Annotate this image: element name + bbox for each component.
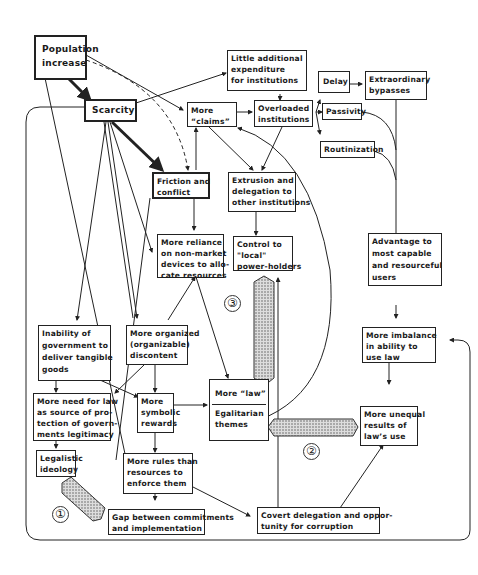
node-text: Delay	[323, 76, 345, 87]
node-text: delegation to	[232, 186, 292, 197]
node-text: Little additional	[231, 53, 303, 64]
node-text: More unequal	[364, 409, 414, 420]
node-more-law: More “law”	[215, 388, 263, 399]
node-overloaded-institutions: Overloaded institutions	[254, 100, 313, 127]
node-text: ments legitimacy	[37, 429, 107, 440]
node-more-symbolic-rewards: More symbolic rewards	[137, 393, 174, 433]
node-text: and resourceful	[372, 260, 438, 272]
node-text: bypasses	[369, 85, 423, 96]
node-more-law-egalitarian: More “law” Egalitarian themes	[209, 379, 269, 441]
node-text: users	[372, 272, 438, 284]
node-text: “claims”	[191, 116, 233, 127]
node-text: Routinization	[324, 144, 371, 155]
node-text: other institutions	[232, 197, 292, 208]
node-text: law’s use	[364, 431, 414, 442]
node-text: tunity for corruption	[261, 521, 376, 532]
node-text: use law	[366, 352, 432, 363]
node-text: enforce them	[127, 478, 189, 489]
node-text: conflict	[157, 187, 205, 198]
node-text: in ability to	[366, 341, 432, 352]
node-more-rules-than-resources: More rules than resources to enforce the…	[123, 453, 193, 494]
node-text: cate resources	[161, 270, 220, 281]
node-text: More reliance	[161, 237, 220, 248]
marker-three: ③	[224, 295, 241, 312]
node-text: Egalitarian	[215, 408, 263, 419]
node-text: resources to	[127, 467, 189, 478]
node-text: Friction and	[157, 176, 205, 187]
node-text: on non-market	[161, 248, 220, 259]
node-more-unequal-results: More unequal results of law’s use	[360, 406, 418, 446]
node-text: Advantage to	[372, 236, 438, 248]
node-text: More imbalance	[366, 330, 432, 341]
node-control-to-local-power-holders: Control to "local" power-holders	[233, 236, 293, 271]
node-text: discontent	[130, 350, 184, 361]
node-legalistic-ideology: Legalistic ideology	[36, 450, 76, 477]
node-text: Overloaded	[258, 103, 309, 114]
node-text: increase	[42, 57, 79, 71]
node-text: More	[191, 105, 233, 116]
node-extraordinary-bypasses: Extraordinary bypasses	[365, 71, 427, 100]
node-text: Scarcity	[92, 104, 129, 118]
node-text: Inability of	[42, 328, 107, 340]
node-friction-and-conflict: Friction and conflict	[152, 172, 210, 199]
node-text: results of	[364, 420, 414, 431]
node-text: More	[141, 396, 170, 407]
node-text: Passivity	[326, 106, 358, 117]
node-more-claims: More “claims”	[187, 102, 237, 127]
node-passivity: Passivity	[322, 103, 362, 120]
node-text: power-holders	[237, 261, 289, 272]
node-advantage-to-capable-users: Advantage to most capable and resourcefu…	[368, 233, 442, 286]
node-text: Legalistic	[40, 453, 72, 464]
node-text: Control to	[237, 239, 289, 250]
hatched-arrow-2	[268, 419, 358, 436]
node-text: deliver tangible	[42, 352, 107, 364]
node-text: institutions	[258, 114, 309, 125]
node-text: and implementation	[112, 523, 201, 534]
node-text: themes	[215, 419, 263, 430]
node-text: symbolic	[141, 407, 170, 418]
node-routinization: Routinization	[320, 141, 375, 158]
node-text: as source of pro-	[37, 407, 107, 418]
node-text: (organizable)	[130, 339, 184, 350]
node-egalitarian-themes: Egalitarian themes	[212, 404, 266, 430]
node-text: Extraordinary	[369, 74, 423, 85]
node-covert-delegation: Covert delegation and oppor- tunity for …	[257, 507, 380, 534]
hatched-arrow-3	[254, 276, 274, 386]
node-text: expenditure	[231, 64, 303, 75]
node-text: ideology	[40, 464, 72, 475]
node-extrusion-and-delegation: Extrusion and delegation to other instit…	[228, 172, 296, 212]
node-text: goods	[42, 364, 107, 376]
node-little-additional-expenditure: Little additional expenditure for instit…	[227, 50, 307, 91]
node-text: More organized	[130, 328, 184, 339]
node-text: Covert delegation and oppor-	[261, 510, 376, 521]
node-text: for institutions	[231, 75, 303, 86]
node-more-organized-discontent: More organized (organizable) discontent	[126, 325, 188, 365]
node-text: government to	[42, 340, 107, 352]
node-gap-between-commitments: Gap between commitments and implementati…	[108, 509, 205, 535]
node-text: devices to allo-	[161, 259, 220, 270]
node-text: Extrusion and	[232, 175, 292, 186]
node-text: rewards	[141, 418, 170, 429]
node-text: tection of govern-	[37, 418, 107, 429]
marker-one: ①	[52, 506, 69, 523]
node-text: More rules than	[127, 456, 189, 467]
node-text: most capable	[372, 248, 438, 260]
node-more-need-for-law: More need for law as source of pro- tect…	[33, 393, 111, 441]
node-text: Gap between commitments	[112, 512, 201, 523]
node-text: Population	[42, 43, 79, 57]
node-delay: Delay	[318, 71, 350, 93]
node-population-increase: Population increase	[34, 35, 87, 80]
node-text: More need for law	[37, 396, 107, 407]
node-scarcity: Scarcity	[84, 99, 137, 122]
node-inability-of-government: Inability of government to deliver tangi…	[38, 325, 111, 381]
node-text: "local"	[237, 250, 289, 261]
marker-two: ②	[303, 443, 320, 460]
node-more-imbalance: More imbalance in ability to use law	[362, 327, 436, 363]
node-more-reliance-non-market: More reliance on non-market devices to a…	[157, 234, 224, 278]
